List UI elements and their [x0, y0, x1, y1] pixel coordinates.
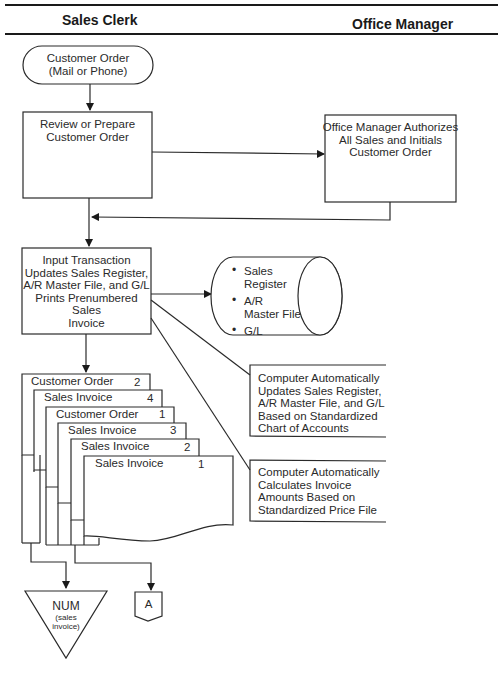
database-item-sales-register: Sales Register	[230, 265, 320, 290]
database-item-ar-master-file: A/R Master File	[230, 295, 320, 320]
num-file-label: NUM (sales invoice)	[40, 600, 92, 631]
document-label: Sales Invoice	[68, 424, 136, 436]
document-label: Sales Invoice	[44, 391, 112, 403]
document-copy-number: 2	[184, 441, 190, 453]
annotation-updates-text: Computer Automatically Updates Sales Reg…	[258, 372, 393, 435]
document-copy-number: 2	[134, 376, 140, 388]
input-transaction-text: Input Transaction Updates Sales Register…	[20, 254, 153, 329]
database-item-gl: G/L	[230, 325, 320, 338]
flowchart-canvas	[0, 0, 500, 685]
document-copy-number: 4	[147, 392, 153, 404]
document-copy-number: 1	[198, 458, 204, 470]
document-copy-number: 3	[170, 424, 176, 436]
start-terminator-text: Customer Order (Mail or Phone)	[23, 52, 153, 77]
document-label: Customer Order	[31, 375, 113, 387]
database-items: Sales Register A/R Master File G/L	[230, 265, 320, 343]
annotation-calculates-text: Computer Automatically Calculates Invoic…	[258, 466, 393, 516]
document-label: Sales Invoice	[81, 440, 149, 452]
document-label: Sales Invoice	[95, 457, 163, 469]
document-copy-number: 1	[159, 408, 165, 420]
off-page-connector-label: A	[135, 598, 162, 611]
authorize-text: Office Manager Authorizes All Sales and …	[322, 121, 459, 159]
review-order-text: Review or Prepare Customer Order	[23, 118, 152, 143]
document-label: Customer Order	[56, 408, 138, 420]
